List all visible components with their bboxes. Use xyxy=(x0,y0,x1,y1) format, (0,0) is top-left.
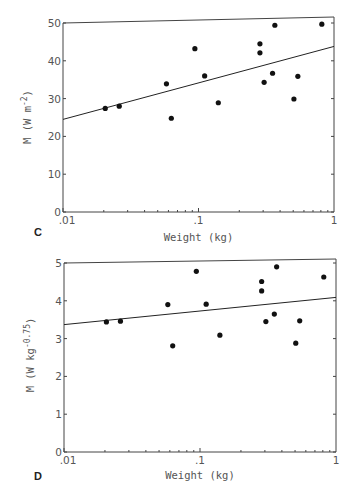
data-point xyxy=(202,73,207,78)
y-tick-label: 30 xyxy=(48,93,61,105)
y-tick-label: 2 xyxy=(55,370,62,382)
data-point xyxy=(192,46,197,51)
y-tick-label: 1 xyxy=(55,408,62,420)
y-axis-title: M (W kg-0.75) xyxy=(23,318,36,393)
data-point xyxy=(103,106,108,111)
data-point xyxy=(204,302,209,307)
data-point xyxy=(259,288,264,293)
y-tick-label: 3 xyxy=(55,333,62,345)
data-point xyxy=(272,23,277,28)
panel-d-chart: 012345.01.11Weight (kg)M (W kg-0.75)D xyxy=(23,257,339,482)
data-point xyxy=(262,80,267,85)
x-tick-label: .01 xyxy=(59,214,76,226)
data-point xyxy=(270,71,275,76)
data-point xyxy=(319,22,324,27)
data-point xyxy=(164,81,169,86)
data-point xyxy=(291,96,296,101)
data-point xyxy=(194,269,199,274)
x-tick-label: .1 xyxy=(195,454,205,466)
data-point xyxy=(259,279,264,284)
data-point xyxy=(104,319,109,324)
data-point xyxy=(274,264,279,269)
y-tick-label: 20 xyxy=(48,130,61,142)
y-tick-label: 10 xyxy=(48,168,61,180)
data-point xyxy=(217,333,222,338)
y-axis-title: M (W m-2) xyxy=(20,90,33,144)
panel-letter: D xyxy=(34,470,42,482)
x-tick-label: 1 xyxy=(331,214,338,226)
data-point xyxy=(117,104,122,109)
x-axis-title: Weight (kg) xyxy=(164,231,234,243)
x-tick-label: .01 xyxy=(60,454,77,466)
top-border xyxy=(63,17,334,23)
panel-letter: C xyxy=(34,226,42,238)
x-axis-title: Weight (kg) xyxy=(165,469,235,481)
top-border xyxy=(64,259,336,263)
data-point xyxy=(216,100,221,105)
data-point xyxy=(257,50,262,55)
data-point xyxy=(321,274,326,279)
data-point xyxy=(272,311,277,316)
y-tick-label: 5 xyxy=(55,257,62,269)
x-tick-label: .1 xyxy=(193,214,203,226)
panel-c-chart: 01020304050.01.11Weight (kg)M (W m-2)C xyxy=(20,17,337,243)
y-tick-label: 50 xyxy=(48,17,61,29)
data-point xyxy=(295,74,300,79)
data-point xyxy=(257,41,262,46)
data-point xyxy=(297,318,302,323)
y-tick-label: 40 xyxy=(48,55,61,67)
data-point xyxy=(293,341,298,346)
y-tick-label: 4 xyxy=(55,295,62,307)
data-point xyxy=(169,116,174,121)
x-tick-label: 1 xyxy=(333,454,340,466)
data-point xyxy=(165,302,170,307)
data-point xyxy=(170,343,175,348)
data-point xyxy=(263,319,268,324)
data-point xyxy=(118,319,123,324)
figure: 01020304050.01.11Weight (kg)M (W m-2)C 0… xyxy=(0,0,354,497)
